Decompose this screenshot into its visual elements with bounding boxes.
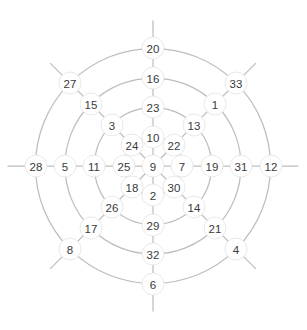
- graph-node-20[interactable]: 20: [142, 37, 164, 59]
- node-circle-33: [225, 72, 247, 94]
- node-circle-25: [113, 155, 135, 177]
- graph-node-2[interactable]: 2: [142, 184, 164, 206]
- node-circle-16: [142, 67, 164, 89]
- node-circle-32: [142, 243, 164, 265]
- node-circle-12: [260, 155, 282, 177]
- graph-node-7[interactable]: 7: [171, 155, 193, 177]
- graph-node-19[interactable]: 19: [201, 155, 223, 177]
- node-circle-11: [83, 155, 105, 177]
- graph-node-3[interactable]: 3: [101, 114, 123, 136]
- graph-node-24[interactable]: 24: [121, 134, 143, 156]
- graph-node-12[interactable]: 12: [260, 155, 282, 177]
- node-circle-15: [80, 93, 102, 115]
- node-circle-8: [59, 238, 81, 260]
- graph-node-15[interactable]: 15: [80, 93, 102, 115]
- graph-node-26[interactable]: 26: [101, 196, 123, 218]
- node-circle-7: [171, 155, 193, 177]
- graph-node-6[interactable]: 6: [142, 273, 164, 295]
- graph-node-13[interactable]: 13: [183, 114, 205, 136]
- node-circle-27: [59, 72, 81, 94]
- node-circle-13: [183, 114, 205, 136]
- radial-graph-canvas: 2033124682827161312132175152313191429261…: [0, 0, 307, 330]
- graph-node-23[interactable]: 23: [142, 96, 164, 118]
- node-circle-4: [225, 238, 247, 260]
- node-circle-10: [142, 126, 164, 148]
- node-circle-3: [101, 114, 123, 136]
- graph-node-29[interactable]: 29: [142, 214, 164, 236]
- graph-node-32[interactable]: 32: [142, 243, 164, 265]
- graph-node-4[interactable]: 4: [225, 238, 247, 260]
- nodes-layer: 2033124682827161312132175152313191429261…: [25, 37, 282, 295]
- radial-graph-svg: 2033124682827161312132175152313191429261…: [0, 0, 307, 330]
- graph-node-1[interactable]: 1: [204, 93, 226, 115]
- node-circle-21: [204, 217, 226, 239]
- node-circle-9: [142, 155, 164, 177]
- node-circle-17: [80, 217, 102, 239]
- node-circle-30: [163, 176, 185, 198]
- graph-node-25[interactable]: 25: [113, 155, 135, 177]
- node-circle-5: [54, 155, 76, 177]
- node-circle-24: [121, 134, 143, 156]
- graph-node-8[interactable]: 8: [59, 238, 81, 260]
- graph-node-5[interactable]: 5: [54, 155, 76, 177]
- graph-node-16[interactable]: 16: [142, 67, 164, 89]
- node-circle-6: [142, 273, 164, 295]
- node-circle-19: [201, 155, 223, 177]
- graph-node-18[interactable]: 18: [121, 176, 143, 198]
- graph-node-31[interactable]: 31: [230, 155, 252, 177]
- node-circle-28: [25, 155, 47, 177]
- graph-node-9[interactable]: 9: [142, 155, 164, 177]
- graph-node-30[interactable]: 30: [163, 176, 185, 198]
- node-circle-1: [204, 93, 226, 115]
- graph-node-11[interactable]: 11: [83, 155, 105, 177]
- graph-node-17[interactable]: 17: [80, 217, 102, 239]
- node-circle-2: [142, 184, 164, 206]
- graph-node-10[interactable]: 10: [142, 126, 164, 148]
- node-circle-26: [101, 196, 123, 218]
- node-circle-20: [142, 37, 164, 59]
- node-circle-18: [121, 176, 143, 198]
- node-circle-29: [142, 214, 164, 236]
- graph-node-27[interactable]: 27: [59, 72, 81, 94]
- graph-node-21[interactable]: 21: [204, 217, 226, 239]
- node-circle-23: [142, 96, 164, 118]
- graph-node-14[interactable]: 14: [183, 196, 205, 218]
- node-circle-31: [230, 155, 252, 177]
- node-circle-14: [183, 196, 205, 218]
- graph-node-28[interactable]: 28: [25, 155, 47, 177]
- graph-node-22[interactable]: 22: [163, 134, 185, 156]
- graph-node-33[interactable]: 33: [225, 72, 247, 94]
- node-circle-22: [163, 134, 185, 156]
